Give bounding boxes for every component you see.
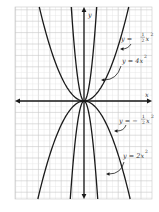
parabola-family-diagram: y x y = 1 2 x 2 y = 4x 2 <box>0 0 159 212</box>
label-prefix: y = − <box>118 117 138 125</box>
label-exponent: 2 <box>151 114 154 119</box>
label-y-half-x-squared: y = 1 2 x 2 <box>120 32 154 51</box>
x-axis-label: x <box>145 91 149 99</box>
label-numerator: 1 <box>142 114 145 119</box>
label-y-neg-half-x-squared: y = − 1 2 x 2 <box>114 114 154 133</box>
label-prefix: y = <box>120 35 132 43</box>
label-variable: x <box>146 117 150 125</box>
leader-arrow-icon <box>114 129 118 133</box>
curve-labels: y = 1 2 x 2 y = 4x 2 y = − 1 2 <box>101 32 154 176</box>
coordinate-plane: y x y = 1 2 x 2 y = 4x 2 <box>0 0 159 212</box>
leader-arrow-icon <box>101 78 105 82</box>
label-exponent: 2 <box>144 54 147 59</box>
label-numerator: 1 <box>142 32 145 37</box>
label-text: y = 4x <box>121 57 143 65</box>
leader-arrow-icon <box>120 47 124 51</box>
y-axis-label: y <box>87 11 92 19</box>
x-axis-right-arrow-icon <box>147 99 152 104</box>
label-variable: x <box>146 35 150 43</box>
label-denominator: 2 <box>142 38 145 43</box>
label-denominator: 2 <box>142 120 145 125</box>
label-text: y = 2x <box>122 152 144 160</box>
y-axis-down-arrow-icon <box>82 194 87 199</box>
label-exponent: 2 <box>145 149 148 154</box>
label-exponent: 2 <box>151 32 154 37</box>
